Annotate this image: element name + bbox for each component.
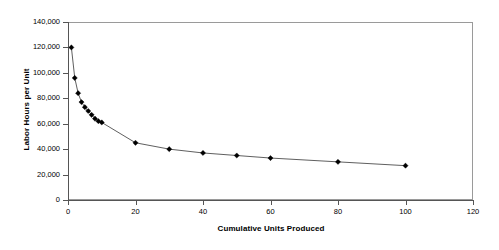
y-tick-label: 80,000: [37, 94, 60, 102]
y-tick: [63, 98, 68, 99]
plot-area: [68, 22, 473, 200]
y-tick-label: 40,000: [37, 145, 60, 153]
y-tick-label: 100,000: [33, 69, 60, 77]
x-tick: [406, 200, 407, 205]
x-tick: [68, 200, 69, 205]
x-tick-label: 0: [48, 208, 88, 216]
x-tick-label: 20: [116, 208, 156, 216]
x-tick: [203, 200, 204, 205]
x-tick: [136, 200, 137, 205]
x-tick-label: 120: [453, 208, 493, 216]
y-tick: [63, 149, 68, 150]
x-tick-label: 40: [183, 208, 223, 216]
y-tick-label: 20,000: [37, 171, 60, 179]
x-tick-label: 80: [318, 208, 358, 216]
x-tick: [338, 200, 339, 205]
y-tick-label: 0: [56, 196, 60, 204]
y-tick: [63, 47, 68, 48]
y-axis-title: Labor Hours per Unit: [22, 40, 31, 180]
x-tick: [473, 200, 474, 205]
x-tick-label: 60: [251, 208, 291, 216]
y-tick-label: 120,000: [33, 43, 60, 51]
x-axis-title: Cumulative Units Produced: [68, 224, 474, 233]
x-tick-label: 100: [386, 208, 426, 216]
y-tick: [63, 73, 68, 74]
y-tick: [63, 124, 68, 125]
x-tick: [271, 200, 272, 205]
y-tick-label: 140,000: [33, 18, 60, 26]
learning-curve-chart: 020,00040,00060,00080,000100,000120,0001…: [0, 0, 499, 250]
y-axis-line: [68, 22, 69, 201]
y-tick: [63, 175, 68, 176]
y-tick: [63, 22, 68, 23]
y-tick-label: 60,000: [37, 120, 60, 128]
